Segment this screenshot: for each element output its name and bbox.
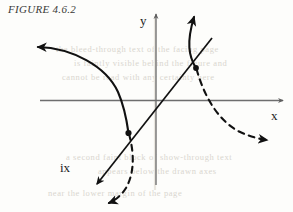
solid-curve-left-branch [38, 47, 129, 133]
figure-caption: FIGURE 4.6.2 [8, 3, 76, 15]
intersection-point-upper-right [193, 65, 199, 71]
dashed-curve-right-branch [197, 69, 268, 140]
y-axis-label: y [140, 13, 147, 29]
intersection-point-lower-left [125, 130, 131, 136]
figure-container: the bleed-through text of the facing pag… [0, 0, 293, 212]
ix-axis-label: ix [60, 160, 70, 176]
x-axis-label: x [271, 108, 278, 124]
figure-drawing [0, 0, 293, 212]
